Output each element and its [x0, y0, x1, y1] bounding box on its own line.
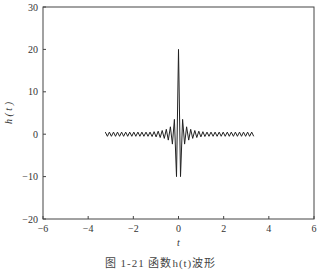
y-tick-label: 10: [28, 86, 38, 97]
figure-caption: 图 1-21 函数h(t)波形: [0, 254, 321, 270]
x-tick-label: 0: [176, 223, 181, 234]
x-tick-label: −2: [128, 223, 139, 234]
y-tick-label: −20: [22, 214, 38, 225]
y-axis-label: h ( t ): [3, 101, 15, 124]
x-tick-label: 6: [312, 223, 317, 234]
x-tick-label: −6: [38, 223, 49, 234]
plot-frame: [43, 7, 314, 219]
x-tick-label: 2: [221, 223, 226, 234]
x-axis-label: t: [177, 237, 180, 248]
series-h-t-line: [105, 49, 253, 176]
y-tick-label: 20: [28, 44, 38, 55]
x-tick-label: −4: [83, 223, 94, 234]
y-tick-label: −10: [22, 171, 38, 182]
x-tick-label: 4: [266, 223, 271, 234]
y-tick-label: 0: [33, 129, 38, 140]
y-axis-ticks: 3020100−10−20: [22, 2, 46, 225]
y-tick-label: 30: [28, 2, 38, 13]
